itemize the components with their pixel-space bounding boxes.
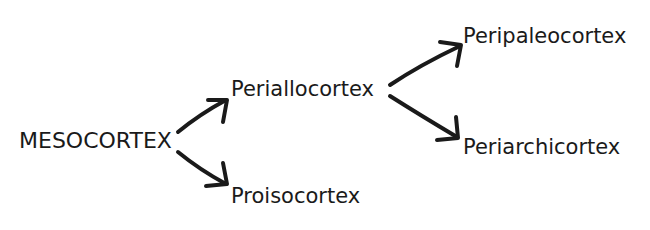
arrow-periallocortex-to-periarchicortex xyxy=(390,96,458,140)
arrow-root-to-proisocortex xyxy=(178,152,227,186)
node-periallocortex: Periallocortex xyxy=(231,79,374,100)
node-mesocortex: MESOCORTEX xyxy=(19,130,172,152)
arrow-periallocortex-to-peripaleocortex xyxy=(390,42,461,85)
arrow-root-to-periallocortex xyxy=(178,100,227,132)
node-peripaleocortex: Peripaleocortex xyxy=(463,26,626,47)
diagram-canvas: MESOCORTEX Periallocortex Proisocortex P… xyxy=(0,0,650,230)
node-proisocortex: Proisocortex xyxy=(231,186,360,207)
node-periarchicortex: Periarchicortex xyxy=(463,137,620,158)
